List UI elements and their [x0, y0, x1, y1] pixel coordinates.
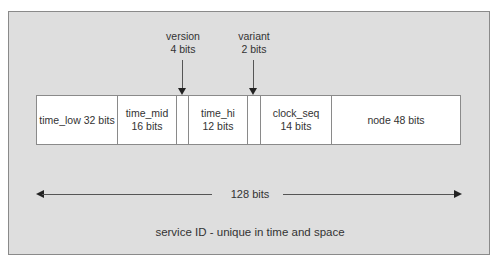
variant-label: variant 2 bits	[229, 30, 279, 56]
field-clock-seq: clock_seq 14 bits	[261, 96, 332, 144]
version-arrow-line	[182, 60, 183, 90]
right-arrow-icon	[454, 190, 462, 198]
variant-arrow-icon	[249, 88, 257, 95]
version-bits: 4 bits	[158, 43, 208, 56]
uuid-fields-row: time_low 32 bits time_mid 16 bits time_h…	[36, 95, 461, 145]
field-node: node 48 bits	[332, 96, 460, 144]
variant-name: variant	[229, 30, 279, 43]
dimension-line-left	[42, 194, 212, 195]
variant-bits: 2 bits	[229, 43, 279, 56]
variant-arrow-line	[253, 60, 254, 90]
field-time-hi: time_hi 12 bits	[189, 96, 248, 144]
field-time-low: time_low 32 bits	[37, 96, 118, 144]
dimension-line-right	[283, 194, 455, 195]
diagram-caption: service ID - unique in time and space	[0, 226, 500, 238]
version-label: version 4 bits	[158, 30, 208, 56]
version-name: version	[158, 30, 208, 43]
version-arrow-icon	[178, 88, 186, 95]
field-variant	[248, 96, 261, 144]
field-time-mid: time_mid 16 bits	[118, 96, 177, 144]
total-bits-label: 128 bits	[220, 188, 280, 201]
field-version	[177, 96, 189, 144]
